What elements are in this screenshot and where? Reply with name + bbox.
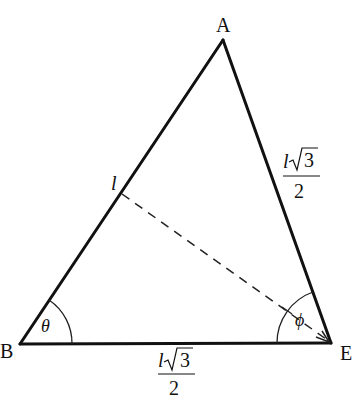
side-be-label: l 3 2 (158, 348, 195, 399)
angle-label-theta: θ (41, 316, 50, 336)
angle-label-phi: ϕ (295, 310, 304, 330)
fraction-denominator: 2 (294, 180, 304, 202)
side-ae (223, 40, 331, 343)
vertex-label-a: A (216, 14, 231, 36)
fraction-numerator-radicand: 3 (180, 349, 190, 371)
fraction-denominator: 2 (169, 377, 179, 399)
side-ab (20, 40, 223, 344)
side-ae-label: l 3 2 (283, 148, 320, 202)
side-be (20, 343, 331, 344)
fraction-numerator-var: l (158, 349, 164, 371)
triangle-diagram: A B E l l 3 2 l 3 2 θ ϕ (0, 0, 364, 401)
fraction-numerator-var: l (283, 150, 289, 172)
angle-arc-theta (49, 300, 72, 344)
side-ab-label: l (111, 172, 117, 194)
vertex-label-b: B (0, 340, 13, 362)
fraction-numerator-radicand: 3 (304, 149, 314, 171)
vertex-label-e: E (340, 342, 352, 364)
